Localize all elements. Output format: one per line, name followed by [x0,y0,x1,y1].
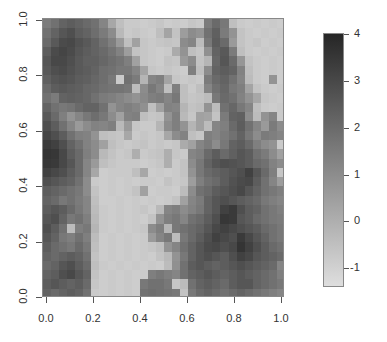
colorbar-label: 1 [354,168,360,180]
colorbar-tick [344,34,349,35]
y-tick-label: 0.0 [17,282,29,310]
x-tick-1 [93,297,94,303]
heatmap-cell [277,289,284,297]
colorbar-tick [344,81,349,82]
x-tick-3 [187,297,188,303]
colorbar-label: 0 [354,214,360,226]
y-tick-2 [36,186,42,187]
y-tick-5 [36,20,42,21]
x-tick-5 [281,297,282,303]
colorbar-tick [344,268,349,269]
x-tick-label: 0.2 [78,312,108,324]
colorbar-tick [344,128,349,129]
heatmap-plot-area [42,18,284,297]
x-tick-label: 0.0 [31,312,61,324]
y-tick-4 [36,75,42,76]
colorbar [323,33,344,287]
y-tick-label: 0.2 [17,227,29,255]
x-tick-label: 0.4 [125,312,155,324]
colorbar-label: 2 [354,121,360,133]
colorbar-tick [344,221,349,222]
x-tick-0 [46,297,47,303]
colorbar-label: 3 [354,74,360,86]
colorbar-label: 4 [354,27,360,39]
x-tick-label: 0.6 [172,312,202,324]
y-tick-1 [36,242,42,243]
x-tick-label: 1.0 [266,312,296,324]
y-tick-label: 0.4 [17,171,29,199]
colorbar-label: -1 [350,261,360,273]
x-tick-label: 0.8 [219,312,249,324]
y-tick-label: 0.6 [17,116,29,144]
y-tick-label: 1.0 [17,5,29,33]
x-tick-2 [140,297,141,303]
y-tick-label: 0.8 [17,60,29,88]
y-tick-0 [36,297,42,298]
colorbar-tick [344,175,349,176]
x-tick-4 [234,297,235,303]
y-tick-3 [36,131,42,132]
